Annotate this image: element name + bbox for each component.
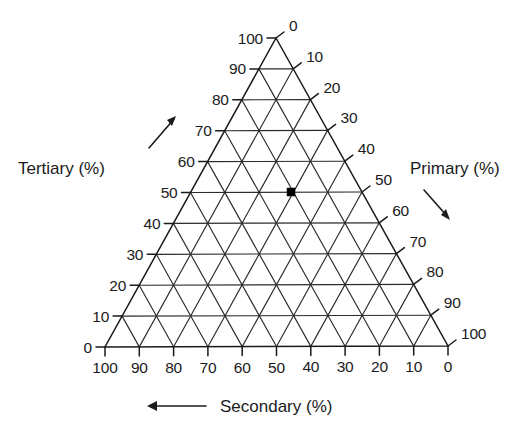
tick-label-secondary: 50 — [268, 359, 285, 376]
tick-label-secondary: 100 — [92, 359, 118, 376]
ternary-grid — [122, 69, 431, 347]
grid-line-primary — [259, 69, 414, 346]
grid-line-primary — [225, 131, 345, 347]
tick-label-secondary: 10 — [405, 358, 422, 375]
tick-label-tertiary: 0 — [84, 339, 93, 356]
tick-mark — [396, 248, 404, 254]
tick-mark — [448, 340, 456, 346]
ternary-data-points — [287, 188, 295, 196]
grid-line-horizontal — [122, 315, 431, 316]
tick-label-tertiary: 80 — [212, 91, 229, 108]
tick-label-secondary: 20 — [371, 358, 388, 375]
tick-label-tertiary: 90 — [229, 60, 246, 77]
tick-label-secondary: 40 — [302, 358, 319, 375]
tick-mark — [431, 309, 439, 315]
tick-mark — [310, 94, 318, 100]
tick-label-secondary: 70 — [199, 359, 216, 376]
grid-line-secondary — [345, 254, 396, 347]
tick-label-secondary: 90 — [131, 359, 148, 376]
tick-label-secondary: 60 — [234, 359, 251, 376]
secondary-axis-title: Secondary (%) — [220, 397, 332, 416]
tick-label-secondary: 30 — [337, 358, 354, 375]
primary-arrow — [424, 190, 450, 220]
tick-mark — [276, 32, 284, 38]
tick-label-primary: 20 — [323, 79, 340, 96]
tick-mark — [414, 278, 422, 284]
tick-label-primary: 60 — [392, 202, 409, 219]
grid-line-primary — [156, 254, 208, 346]
ternary-plot-canvas: 0102030405060708090100010203040506070809… — [0, 0, 528, 437]
tick-label-tertiary: 70 — [195, 122, 212, 139]
grid-line-horizontal — [156, 254, 396, 255]
tick-label-primary: 80 — [427, 263, 444, 280]
grid-line-primary — [191, 193, 277, 347]
tick-label-tertiary: 60 — [178, 153, 195, 170]
tick-label-secondary: 80 — [165, 359, 182, 376]
tick-label-primary: 30 — [341, 109, 358, 126]
grid-line-secondary — [139, 69, 293, 347]
tick-label-tertiary: 100 — [238, 30, 264, 47]
grid-line-secondary — [414, 315, 431, 346]
grid-line-secondary — [208, 130, 328, 346]
tick-mark — [328, 124, 336, 130]
grid-line-horizontal — [173, 223, 379, 224]
tick-mark — [362, 186, 370, 192]
tick-label-tertiary: 40 — [144, 215, 161, 232]
ternary-tick-marks — [96, 32, 456, 356]
tick-label-tertiary: 50 — [161, 184, 178, 201]
tick-label-secondary: 0 — [444, 358, 453, 375]
ternary-diagram-figure: 0102030405060708090100010203040506070809… — [0, 0, 528, 437]
tick-mark — [345, 155, 353, 161]
tick-label-primary: 70 — [409, 233, 426, 250]
tick-label-primary: 90 — [444, 294, 461, 311]
tick-label-tertiary: 30 — [126, 246, 143, 263]
tick-label-primary: 40 — [358, 140, 375, 157]
grid-line-secondary — [277, 192, 363, 347]
tick-label-primary: 0 — [289, 17, 298, 34]
tick-label-primary: 50 — [375, 171, 392, 188]
data-point-marker — [287, 188, 295, 196]
grid-line-primary — [122, 316, 139, 347]
tertiary-arrow — [149, 116, 176, 148]
tick-mark — [293, 63, 301, 69]
tick-label-primary: 10 — [306, 48, 323, 65]
secondary-arrow — [147, 401, 206, 411]
grid-line-horizontal — [191, 192, 363, 193]
tick-label-tertiary: 10 — [92, 308, 109, 325]
tertiary-axis-title: Tertiary (%) — [18, 159, 105, 178]
primary-axis-title: Primary (%) — [410, 159, 500, 178]
tick-mark — [379, 217, 387, 223]
tick-label-tertiary: 20 — [109, 277, 126, 294]
tick-label-primary: 100 — [461, 325, 487, 342]
